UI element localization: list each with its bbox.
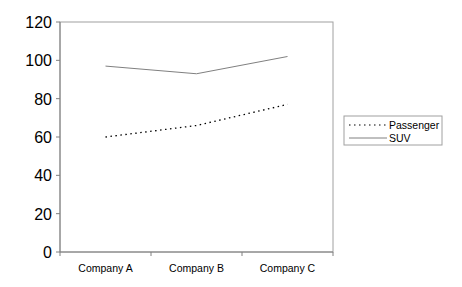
y-tick-label: 20 bbox=[34, 206, 52, 223]
y-tick-label: 60 bbox=[34, 129, 52, 146]
legend-suv-label: SUV bbox=[389, 132, 411, 144]
series-lines bbox=[106, 57, 288, 138]
x-axis-ticks: Company ACompany BCompany C bbox=[60, 252, 333, 274]
series-line-passenger bbox=[106, 104, 288, 137]
plot-area bbox=[60, 22, 333, 252]
legend: Passenger SUV bbox=[344, 116, 442, 145]
x-tick-label: Company B bbox=[169, 262, 224, 274]
y-tick-label: 0 bbox=[43, 244, 52, 261]
y-axis-ticks: 020406080100120 bbox=[25, 14, 60, 261]
y-tick-label: 120 bbox=[25, 14, 52, 31]
x-tick-label: Company C bbox=[260, 262, 316, 274]
legend-passenger-label: Passenger bbox=[389, 119, 440, 131]
line-chart: 020406080100120 Company ACompany BCompan… bbox=[0, 0, 462, 287]
y-tick-label: 80 bbox=[34, 91, 52, 108]
series-line-suv bbox=[106, 57, 288, 74]
x-tick-label: Company A bbox=[78, 262, 132, 274]
y-tick-label: 40 bbox=[34, 167, 52, 184]
y-tick-label: 100 bbox=[25, 52, 52, 69]
